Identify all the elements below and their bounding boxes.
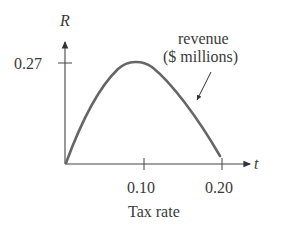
x-tick-label-020: 0.20 — [205, 179, 233, 196]
x-axis-label: Tax rate — [128, 203, 180, 220]
annotation-arrow — [197, 72, 211, 100]
y-tick-label: 0.27 — [14, 55, 42, 72]
annotation-line2: ($ millions) — [163, 48, 238, 66]
x-tick-label-010: 0.10 — [127, 179, 155, 196]
revenue-curve — [66, 62, 220, 163]
x-axis-symbol: t — [254, 155, 259, 172]
y-axis-symbol: R — [59, 12, 70, 29]
revenue-chart: R t 0.27 0.10 0.20 Tax rate revenue ($ m… — [0, 0, 281, 237]
annotation-line1: revenue — [178, 30, 229, 47]
